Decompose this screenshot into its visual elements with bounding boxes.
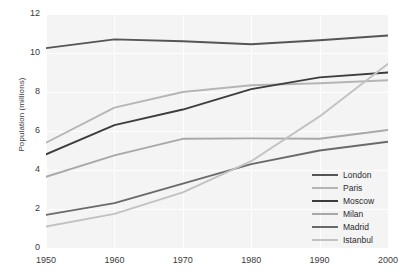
legend-item-paris[interactable]: Paris (312, 181, 398, 194)
series-line-moscow (46, 73, 388, 155)
legend-item-milan[interactable]: Milan (312, 207, 398, 220)
x-tick-label: 1970 (158, 255, 208, 265)
y-tick-label: 6 (6, 125, 40, 135)
y-tick-label: 0 (6, 242, 40, 252)
y-tick-label: 2 (6, 203, 40, 213)
legend-label: Istanbul (343, 235, 373, 245)
legend-swatch-icon (312, 213, 338, 215)
gridline-horizontal (46, 248, 388, 249)
series-line-london (46, 35, 388, 48)
legend-label: Milan (343, 209, 363, 219)
x-tick-label: 1960 (89, 255, 139, 265)
x-tick-label: 1980 (226, 255, 276, 265)
legend-swatch-icon (312, 239, 338, 241)
x-tick-label: 2000 (363, 255, 400, 265)
legend-swatch-icon (312, 187, 338, 189)
line-chart: Population (millions) 024681012 19501960… (0, 0, 400, 278)
y-tick-label: 4 (6, 164, 40, 174)
legend-item-moscow[interactable]: Moscow (312, 194, 398, 207)
legend-swatch-icon (312, 200, 338, 202)
legend-label: Moscow (343, 196, 374, 206)
x-tick-label: 1950 (21, 255, 71, 265)
legend-swatch-icon (312, 226, 338, 228)
legend-label: Paris (343, 183, 362, 193)
legend-label: London (343, 170, 371, 180)
legend-item-london[interactable]: London (312, 168, 398, 181)
x-tick-label: 1990 (295, 255, 345, 265)
y-tick-label: 8 (6, 86, 40, 96)
legend-item-istanbul[interactable]: Istanbul (312, 233, 398, 246)
legend-swatch-icon (312, 174, 338, 176)
y-tick-label: 10 (6, 47, 40, 57)
legend-label: Madrid (343, 222, 369, 232)
legend-item-madrid[interactable]: Madrid (312, 220, 398, 233)
y-tick-label: 12 (6, 8, 40, 18)
legend: LondonParisMoscowMilanMadridIstanbul (312, 168, 398, 246)
